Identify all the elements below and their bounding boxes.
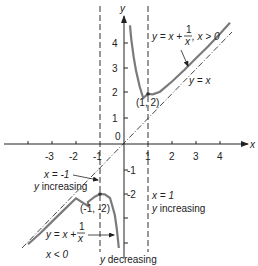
x-tick-label: -2 xyxy=(69,151,78,162)
right-line-label: x = 1 xyxy=(151,190,174,201)
left-line-pointer xyxy=(73,175,98,180)
right-line-status: y increasing xyxy=(151,203,205,214)
asymptote-label: y = x xyxy=(188,75,211,86)
left-line-status: y increasing xyxy=(33,181,87,192)
svg-text:x: x xyxy=(184,36,191,47)
y-tick-label: 1 xyxy=(112,113,118,124)
svg-text:y = x +: y = x + xyxy=(45,229,76,240)
point-minimum xyxy=(146,92,150,96)
y-axis-label: y xyxy=(119,3,126,14)
y-tick-label: 2 xyxy=(112,87,118,98)
point-maximum xyxy=(98,192,102,196)
y-tick-label: -1 xyxy=(127,165,136,176)
x-tick-label: 4 xyxy=(217,151,223,162)
right-formula-pointer xyxy=(181,50,188,66)
y-tick-label: 4 xyxy=(112,38,118,49)
x-tick-label: 3 xyxy=(193,151,199,162)
svg-text:1: 1 xyxy=(79,221,85,232)
x-axis-label: x xyxy=(249,139,256,150)
y-tick-label: -2 xyxy=(127,189,136,200)
x-tick-label: -3 xyxy=(45,151,54,162)
function-graph: -3 -2 -1 1 2 3 4 4 3 2 1 -1 -2 0 x y y =… xyxy=(0,0,258,266)
minimum-label: (1, 2) xyxy=(136,97,159,108)
maximum-label: (-1, -2) xyxy=(80,203,110,214)
asymptote-line xyxy=(22,32,232,248)
left-line-label: x = -1 xyxy=(43,169,69,180)
svg-text:x: x xyxy=(77,233,84,244)
y-tick-label: 3 xyxy=(112,63,118,74)
x-tick-label: -1 xyxy=(93,151,102,162)
bottom-status: y decreasing xyxy=(99,254,157,265)
x-tick-label: 1 xyxy=(145,151,151,162)
x-tick-label: 2 xyxy=(169,151,175,162)
svg-text:y = x +: y = x + xyxy=(151,31,182,42)
left-branch-condition: x < 0 xyxy=(45,249,68,260)
left-branch-formula: y = x + 1 x xyxy=(45,221,85,244)
origin-label: 0 xyxy=(115,131,121,142)
svg-text:, x > 0: , x > 0 xyxy=(192,31,220,42)
